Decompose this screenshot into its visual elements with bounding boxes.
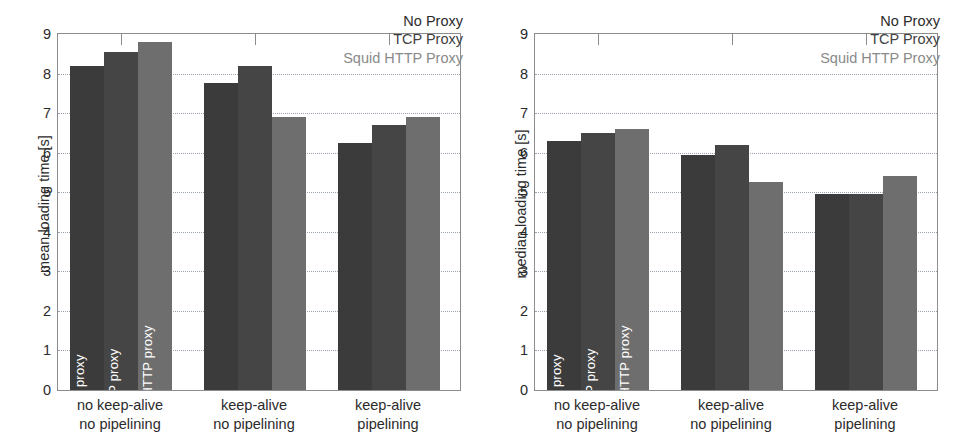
bar-inline-label: TCP proxy [106,349,121,390]
bar[interactable]: TCP proxy [581,133,615,390]
legend-mean: No ProxyTCP ProxySquid HTTP Proxy [343,12,463,67]
x-tick-label: keep-aliveno pipelining [213,396,294,434]
bar[interactable]: TCP proxy [104,52,138,390]
x-tick-mark [255,34,256,45]
x-tick-label-line: no pipelining [77,415,163,434]
bar-group: no proxyTCP proxySquid HTTP proxy [547,34,649,390]
y-tick-label: 6 [43,145,51,161]
x-tick-label: keep-alivepipelining [832,396,898,434]
x-tick-label-line: pipelining [355,415,421,434]
figure-root: mean loading time [s] 0123456789no proxy… [0,0,954,448]
x-tick-label-line: keep-alive [213,396,294,415]
y-tick-label: 9 [520,26,528,42]
y-tick-label: 1 [43,342,51,358]
bar-group [338,34,440,390]
bar[interactable] [849,194,883,390]
y-tick-label: 7 [520,105,528,121]
bar[interactable]: no proxy [547,141,581,390]
bar[interactable]: Squid HTTP proxy [615,129,649,390]
x-tick-label: keep-alivepipelining [355,396,421,434]
x-tick-label: keep-aliveno pipelining [690,396,771,434]
chart-panel-median: median loading time [s] 0123456789no pro… [477,0,954,448]
y-tick-label: 2 [43,303,51,319]
y-tick-label: 7 [43,105,51,121]
plot-area-mean: 0123456789no proxyTCP proxySquid HTTP pr… [57,33,461,391]
legend-entry: No Proxy [343,12,463,30]
x-tick-label: no keep-aliveno pipelining [77,396,163,434]
bar-inline-label: no proxy [72,354,87,390]
plot-area-median: 0123456789no proxyTCP proxySquid HTTP pr… [534,33,938,391]
x-tick-mark [732,34,733,45]
bar[interactable] [372,125,406,390]
y-tick-label: 3 [43,263,51,279]
x-tick-mark [121,34,122,45]
bar[interactable] [338,143,372,390]
x-axis-labels-median: no keep-aliveno pipeliningkeep-aliveno p… [534,396,938,442]
bar[interactable] [681,155,715,390]
x-tick-label-line: no pipelining [554,415,640,434]
bar-group: no proxyTCP proxySquid HTTP proxy [70,34,172,390]
y-tick-label: 3 [520,263,528,279]
x-tick-label-line: no keep-alive [77,396,163,415]
legend-entry: Squid HTTP Proxy [343,49,463,67]
y-tick-label: 6 [520,145,528,161]
bar[interactable] [406,117,440,390]
bar-group [815,34,917,390]
bar-group [681,34,783,390]
x-tick-label-line: pipelining [832,415,898,434]
y-tick-label: 1 [520,342,528,358]
bar[interactable] [272,117,306,390]
bar[interactable] [204,83,238,390]
y-tick-label: 9 [43,26,51,42]
chart-panel-mean: mean loading time [s] 0123456789no proxy… [0,0,477,448]
bar[interactable] [749,182,783,390]
y-tick-label: 4 [520,224,528,240]
y-tick-label: 8 [520,66,528,82]
bar[interactable] [815,194,849,390]
x-tick-label-line: no pipelining [690,415,771,434]
bar[interactable]: no proxy [70,66,104,390]
y-tick-label: 8 [43,66,51,82]
bar-inline-label: TCP proxy [583,349,598,390]
bar-inline-label: Squid HTTP proxy [140,325,155,390]
y-tick-label: 0 [43,382,51,398]
y-tick-label: 4 [43,224,51,240]
y-tick-label: 0 [520,382,528,398]
bar-inline-label: no proxy [549,354,564,390]
x-tick-label-line: keep-alive [690,396,771,415]
x-tick-label-line: no pipelining [213,415,294,434]
bar-inline-label: Squid HTTP proxy [617,325,632,390]
x-tick-label-line: no keep-alive [554,396,640,415]
legend-entry: No Proxy [820,12,940,30]
y-tick-label: 5 [43,184,51,200]
x-axis-labels-mean: no keep-aliveno pipeliningkeep-aliveno p… [57,396,461,442]
x-tick-label: no keep-aliveno pipelining [554,396,640,434]
x-tick-label-line: keep-alive [832,396,898,415]
bar[interactable]: Squid HTTP proxy [138,42,172,390]
bar[interactable] [715,145,749,390]
bar[interactable] [238,66,272,390]
y-tick-label: 2 [520,303,528,319]
legend-entry: Squid HTTP Proxy [820,49,940,67]
x-tick-label-line: keep-alive [355,396,421,415]
bar-group [204,34,306,390]
legend-entry: TCP Proxy [343,30,463,48]
legend-median: No ProxyTCP ProxySquid HTTP Proxy [820,12,940,67]
legend-entry: TCP Proxy [820,30,940,48]
y-tick-label: 5 [520,184,528,200]
x-tick-mark [598,34,599,45]
bar[interactable] [883,176,917,390]
